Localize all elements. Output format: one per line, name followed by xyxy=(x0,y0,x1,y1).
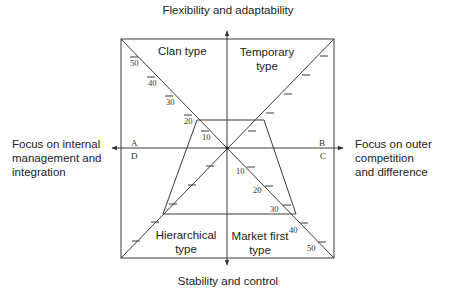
corner-letter-d: D xyxy=(131,151,138,161)
quadrant-clan-type: Clan type xyxy=(158,44,207,58)
competing-values-diagram: Flexibility and adaptability Stability a… xyxy=(0,0,449,296)
tick-label: 20 xyxy=(253,186,262,195)
culture-profile-trapezoid xyxy=(163,120,296,214)
tick-label: 30 xyxy=(166,98,175,107)
axis-label-top: Flexibility and adaptability xyxy=(150,3,306,17)
tick-label: 40 xyxy=(148,79,157,88)
tick-label: 10 xyxy=(236,167,245,176)
tick-label: 20 xyxy=(184,117,193,126)
corner-letter-c: C xyxy=(320,151,326,161)
tick-label: 30 xyxy=(270,205,279,214)
corner-letter-a: A xyxy=(131,138,138,148)
tick-label: 50 xyxy=(307,244,316,253)
tick-label: 40 xyxy=(289,226,298,235)
corner-letter-b: B xyxy=(319,138,325,148)
origin-point xyxy=(225,146,228,149)
axis-label-bottom: Stability and control xyxy=(150,274,306,288)
tick-label: 50 xyxy=(130,59,139,68)
tick-label: 10 xyxy=(202,133,211,142)
